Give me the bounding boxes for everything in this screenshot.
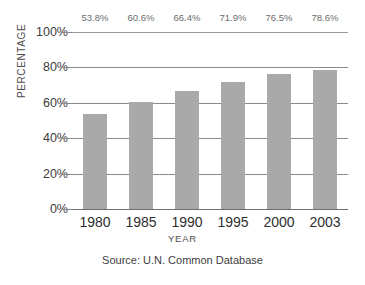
data-label-1980: 53.8% — [75, 12, 115, 23]
gridline-60 — [72, 103, 348, 104]
x-axis-title: YEAR — [0, 233, 365, 244]
gridline-20 — [72, 174, 348, 175]
source-note: Source: U.N. Common Database — [0, 254, 365, 266]
tick-stub-40 — [62, 138, 72, 139]
data-label-1985: 60.6% — [121, 12, 161, 23]
bar-2000 — [267, 74, 291, 209]
x-tick-label-2003: 2003 — [303, 214, 347, 230]
bar-1980 — [83, 114, 107, 209]
data-label-1995: 71.9% — [213, 12, 253, 23]
gridline-80 — [72, 67, 348, 68]
bar-2003 — [313, 70, 337, 209]
plot-area — [72, 32, 348, 209]
tick-stub-100 — [62, 32, 72, 33]
x-tick-label-1990: 1990 — [165, 214, 209, 230]
gridline-100 — [72, 32, 348, 33]
tick-stub-0 — [62, 209, 72, 210]
gridline-40 — [72, 138, 348, 139]
bar-1990 — [175, 91, 199, 209]
tick-stub-20 — [62, 174, 72, 175]
tick-stub-80 — [62, 67, 72, 68]
x-tick-label-1995: 1995 — [211, 214, 255, 230]
data-label-1990: 66.4% — [167, 12, 207, 23]
data-label-2003: 78.6% — [305, 12, 345, 23]
x-tick-label-2000: 2000 — [257, 214, 301, 230]
bar-chart: PERCENTAGE 100%80%60%40%20%0% 53.8%19806… — [0, 0, 365, 285]
bar-1995 — [221, 82, 245, 209]
x-tick-label-1980: 1980 — [73, 214, 117, 230]
y-axis-title: PERCENTAGE — [16, 0, 27, 98]
bar-1985 — [129, 102, 153, 209]
x-tick-label-1985: 1985 — [119, 214, 163, 230]
gridline-0 — [72, 209, 348, 210]
tick-stub-60 — [62, 103, 72, 104]
data-label-2000: 76.5% — [259, 12, 299, 23]
